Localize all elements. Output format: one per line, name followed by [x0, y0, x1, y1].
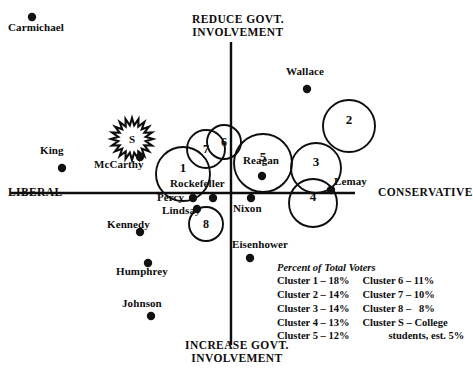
legend-row: Cluster 7 – 10%	[362, 288, 464, 302]
candidate-label-king: King	[40, 145, 64, 157]
axis-label-bottom-line2: INVOLVEMENT	[178, 352, 296, 365]
axis-label-top-line1: REDUCE GOVT.	[183, 13, 293, 26]
cluster-label-3: 3	[313, 154, 320, 170]
cluster-label-6: 6	[221, 135, 227, 150]
legend-row: Cluster 8 – 8%	[362, 302, 464, 316]
legend-row: Cluster 6 – 11%	[362, 274, 464, 288]
candidate-label-percy: Percy	[157, 192, 184, 204]
candidate-label-rockefeller: Rockefeller	[170, 178, 225, 190]
cluster-label-7: 7	[203, 142, 209, 157]
legend-row: Cluster 2 – 14%	[277, 288, 349, 302]
cluster-label-2: 2	[346, 112, 353, 128]
candidate-dot-reagan	[258, 172, 266, 180]
legend-title: Percent of Total Voters	[277, 262, 464, 273]
candidate-dot-percy	[189, 194, 197, 202]
legend: Percent of Total Voters Cluster 1 – 18%C…	[277, 262, 464, 343]
candidate-label-lemay: Lemay	[334, 176, 367, 188]
candidate-dot-johnson	[147, 312, 155, 320]
candidate-dot-rockefeller	[209, 194, 217, 202]
legend-row: students, est. 5%	[362, 329, 464, 343]
candidate-label-reagan: Reagan	[243, 155, 279, 167]
axis-label-reduce-govt-involvement: REDUCE GOVT. INVOLVEMENT	[183, 13, 293, 39]
cluster-label-4: 4	[310, 189, 317, 205]
candidate-label-nixon: Nixon	[233, 203, 262, 215]
political-cluster-map: 12345678S CarmichaelKingMcCarthyWallaceR…	[0, 0, 473, 374]
candidate-label-lindsay: Lindsay	[162, 205, 201, 217]
cluster-circles-group	[156, 100, 375, 241]
cluster-label-1: 1	[180, 160, 187, 176]
legend-row: Cluster 4 – 13%	[277, 316, 349, 330]
candidate-label-kennedy: Kennedy	[107, 219, 150, 231]
legend-row: Cluster 3 – 14%	[277, 302, 349, 316]
legend-row: Cluster 1 – 18%	[277, 274, 349, 288]
candidate-dot-king	[58, 164, 66, 172]
candidate-label-johnson: Johnson	[122, 298, 162, 310]
cluster-label-8: 8	[203, 217, 209, 232]
candidate-dot-eisenhower	[246, 254, 254, 262]
candidate-dot-nixon	[247, 194, 255, 202]
candidate-label-carmichael: Carmichael	[8, 22, 64, 34]
axis-label-liberal: LIBERAL	[8, 186, 63, 198]
axis-label-top-line2: INVOLVEMENT	[183, 26, 293, 39]
candidate-dot-wallace	[303, 85, 311, 93]
cluster-label-s: S	[129, 133, 135, 145]
axis-label-conservative: CONSERVATIVE	[378, 186, 473, 198]
legend-column-left: Cluster 1 – 18%Cluster 2 – 14%Cluster 3 …	[277, 274, 349, 343]
candidate-label-wallace: Wallace	[286, 66, 324, 78]
candidate-label-mccarthy: McCarthy	[94, 159, 144, 171]
legend-row: Cluster 5 – 12%	[277, 329, 349, 343]
legend-row: Cluster S – College	[362, 316, 464, 330]
legend-column-right: Cluster 6 – 11%Cluster 7 – 10%Cluster 8 …	[362, 274, 464, 343]
candidate-label-eisenhower: Eisenhower	[232, 239, 288, 251]
candidate-dot-carmichael	[28, 13, 36, 21]
candidate-label-humphrey: Humphrey	[116, 266, 168, 278]
